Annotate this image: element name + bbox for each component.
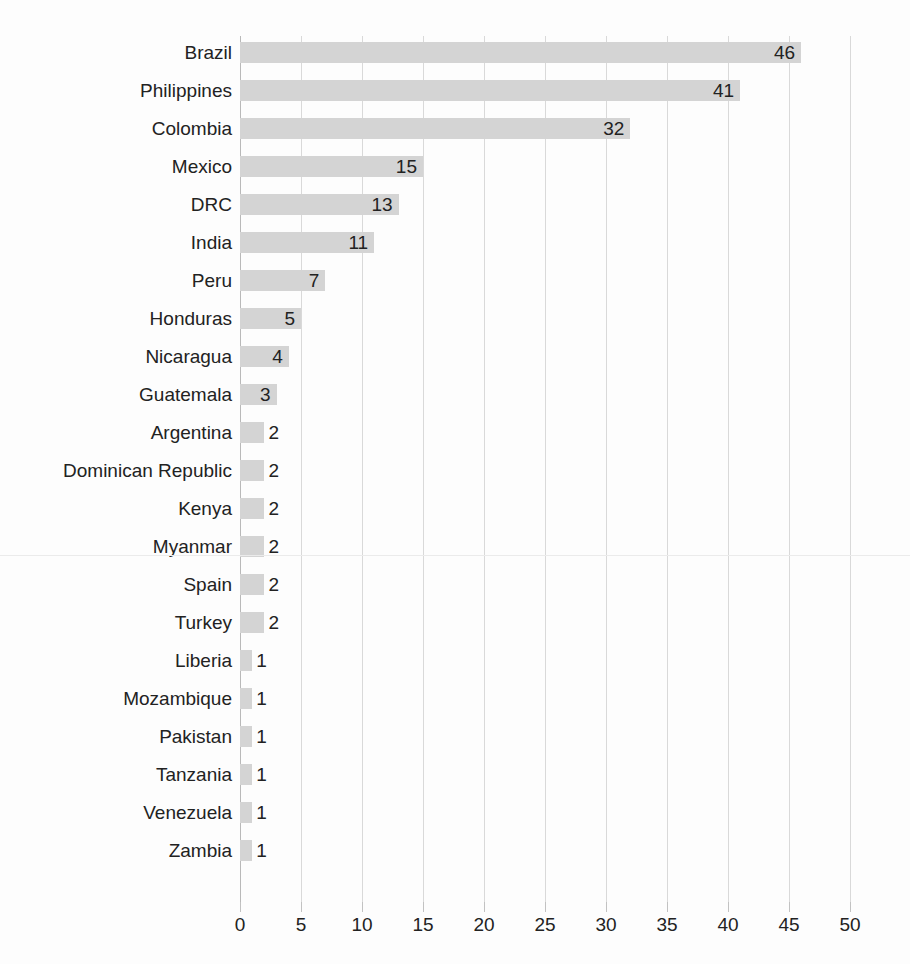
category-label: Brazil (0, 42, 232, 63)
bar-row: Brazil46 (0, 36, 910, 74)
bar-row: Zambia1 (0, 834, 910, 872)
category-label: Philippines (0, 80, 232, 101)
x-tick-label: 40 (717, 914, 738, 936)
bar-container: 2 (240, 574, 264, 595)
bar-container: 2 (240, 536, 264, 557)
bar-value-label: 15 (396, 156, 417, 177)
bar-rows: Brazil46Philippines41Colombia32Mexico15D… (0, 36, 910, 872)
bar-value-label: 1 (256, 726, 267, 747)
bar-value-label: 4 (272, 346, 283, 367)
bar[interactable] (240, 802, 252, 823)
x-tick-mark (545, 902, 546, 912)
bar-value-label: 5 (284, 308, 295, 329)
bar-value-label: 2 (268, 612, 279, 633)
bar-container: 2 (240, 498, 264, 519)
category-label: India (0, 232, 232, 253)
bar[interactable] (240, 460, 264, 481)
bar-chart: Brazil46Philippines41Colombia32Mexico15D… (0, 0, 910, 964)
category-label: Colombia (0, 118, 232, 139)
bar[interactable] (240, 384, 277, 405)
category-label: Mexico (0, 156, 232, 177)
x-tick-label: 30 (595, 914, 616, 936)
x-tick-mark (789, 902, 790, 912)
bar-value-label: 41 (713, 80, 734, 101)
x-tick-mark (850, 902, 851, 912)
bar-row: Tanzania1 (0, 758, 910, 796)
category-label: Venezuela (0, 802, 232, 823)
bar-row: Liberia1 (0, 644, 910, 682)
category-label: Turkey (0, 612, 232, 633)
bar-row: Dominican Republic2 (0, 454, 910, 492)
bar-value-label: 32 (603, 118, 624, 139)
bar-row: Pakistan1 (0, 720, 910, 758)
bar-row: Myanmar2 (0, 530, 910, 568)
category-label: Myanmar (0, 536, 232, 557)
bar-value-label: 11 (348, 232, 368, 253)
bar[interactable] (240, 840, 252, 861)
bar[interactable] (240, 650, 252, 671)
bar[interactable] (240, 118, 630, 139)
x-tick-label: 5 (296, 914, 307, 936)
bar-row: DRC13 (0, 188, 910, 226)
bar-value-label: 2 (268, 574, 279, 595)
category-label: Pakistan (0, 726, 232, 747)
bar-row: Spain2 (0, 568, 910, 606)
bar-value-label: 2 (268, 498, 279, 519)
bar-row: Peru7 (0, 264, 910, 302)
bar[interactable] (240, 422, 264, 443)
bar-container: 1 (240, 764, 252, 785)
bar-value-label: 1 (256, 650, 267, 671)
bar-row: Mozambique1 (0, 682, 910, 720)
bar[interactable] (240, 764, 252, 785)
bar-container: 1 (240, 802, 252, 823)
bar-container: 11 (240, 232, 374, 253)
bar-row: Venezuela1 (0, 796, 910, 834)
bar-row: Honduras5 (0, 302, 910, 340)
x-tick-label: 25 (534, 914, 555, 936)
scan-artifact-line (0, 555, 910, 556)
x-tick-label: 45 (778, 914, 799, 936)
bar[interactable] (240, 498, 264, 519)
bar[interactable] (240, 574, 264, 595)
bar-value-label: 2 (268, 460, 279, 481)
bar[interactable] (240, 536, 264, 557)
bar-row: India11 (0, 226, 910, 264)
bar[interactable] (240, 726, 252, 747)
bar[interactable] (240, 688, 252, 709)
bar-value-label: 2 (268, 536, 279, 557)
bar[interactable] (240, 42, 801, 63)
bar-value-label: 3 (260, 384, 271, 405)
category-label: Honduras (0, 308, 232, 329)
x-tick-label: 20 (473, 914, 494, 936)
x-tick-mark (728, 902, 729, 912)
bar[interactable] (240, 80, 740, 101)
category-label: Kenya (0, 498, 232, 519)
category-label: Zambia (0, 840, 232, 861)
category-label: Nicaragua (0, 346, 232, 367)
x-tick-mark (362, 902, 363, 912)
bar-row: Turkey2 (0, 606, 910, 644)
bar-container: 1 (240, 726, 252, 747)
category-label: Mozambique (0, 688, 232, 709)
bar-row: Mexico15 (0, 150, 910, 188)
category-label: Peru (0, 270, 232, 291)
bar-value-label: 1 (256, 688, 267, 709)
category-label: Spain (0, 574, 232, 595)
bar-row: Kenya2 (0, 492, 910, 530)
bar-row: Guatemala3 (0, 378, 910, 416)
bar-container: 1 (240, 688, 252, 709)
bar-container: 4 (240, 346, 289, 367)
bar-container: 1 (240, 840, 252, 861)
bar[interactable] (240, 612, 264, 633)
x-tick-mark (484, 902, 485, 912)
bar-container: 2 (240, 422, 264, 443)
bar-row: Argentina2 (0, 416, 910, 454)
x-tick-mark (301, 902, 302, 912)
bar-value-label: 7 (309, 270, 320, 291)
x-tick-label: 15 (412, 914, 433, 936)
bar-container: 2 (240, 612, 264, 633)
bar-value-label: 2 (268, 422, 279, 443)
category-label: DRC (0, 194, 232, 215)
category-label: Guatemala (0, 384, 232, 405)
x-tick-label: 35 (656, 914, 677, 936)
